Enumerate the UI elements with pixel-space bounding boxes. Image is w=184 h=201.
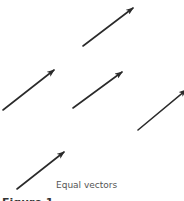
vector-2-arrow-icon	[3, 70, 54, 110]
vector-3-arrow-icon	[73, 72, 122, 108]
figure-label: Figure 1	[2, 196, 53, 201]
equal-vectors-diagram: Equal vectors Figure 1	[0, 0, 184, 201]
vectors-canvas	[0, 0, 184, 201]
vector-4-arrow-icon	[138, 90, 184, 130]
vector-1-arrow-icon	[83, 8, 133, 46]
diagram-caption: Equal vectors	[56, 180, 117, 190]
